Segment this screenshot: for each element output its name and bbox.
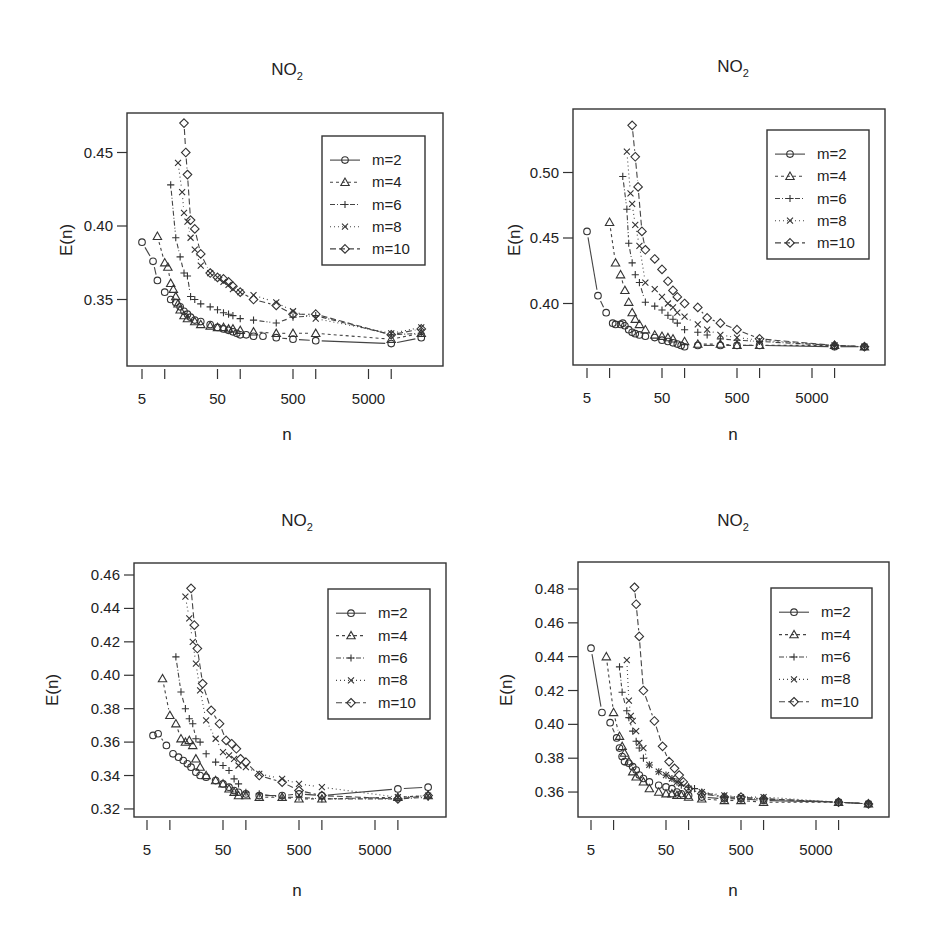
data-point [273,334,280,341]
data-point [188,235,194,241]
legend-item: m=6 [779,648,851,665]
data-point [237,315,244,322]
series-connector [708,799,719,800]
y-axis-label: E(n) [43,674,62,706]
data-point [674,320,681,327]
data-point [177,688,184,695]
data-point [212,759,219,766]
series-connector [214,715,216,718]
legend-item: m=8 [336,671,408,688]
data-point [659,294,665,300]
series-connector [592,654,601,706]
x-tick-label: 5 [583,389,591,406]
y-tick-label: 0.45 [84,144,113,161]
data-point [658,742,667,751]
legend-label: m=8 [378,671,408,688]
series-m-2 [588,645,872,807]
x-axis-label: n [292,881,301,900]
series-connector [627,215,628,237]
data-point [260,333,267,340]
series-connector [183,198,184,207]
data-point [650,717,659,726]
data-point [694,329,701,336]
plus-marker-icon [786,195,793,202]
y-tick-label: 0.40 [535,715,564,732]
series-connector [639,193,642,226]
data-point [680,299,689,308]
series-connector [637,610,639,630]
data-point [619,173,626,180]
data-point [670,304,676,310]
series-connector [607,663,613,707]
legend-item: m=4 [336,627,408,644]
data-point [215,719,224,728]
series-connector [397,334,415,335]
data-point [636,243,642,249]
data-point [203,717,209,723]
y-axis: 0.360.380.400.420.440.460.48 [535,580,578,800]
data-point [279,794,286,801]
series-connector [196,235,199,248]
data-point [161,289,168,296]
data-point [640,755,647,762]
data-point [630,718,636,724]
legend-item: m=4 [779,626,851,643]
data-point [624,657,630,663]
series-connector [145,247,150,256]
data-point [250,333,257,340]
data-point [197,300,204,307]
data-point [717,335,724,342]
series-connector [177,663,180,686]
series-connector [322,334,386,339]
y-tick-label: 0.40 [91,666,120,683]
series-connector [615,718,618,730]
data-point [198,263,204,269]
series-connector [620,673,621,686]
legend-item: m=2 [779,603,851,620]
series-connector [186,603,188,613]
y-tick-label: 0.38 [91,700,120,717]
series-connector [282,305,288,308]
data-point [164,263,172,270]
legend-label: m=2 [821,603,851,620]
x-tick-label: 500 [280,390,305,407]
data-point [197,739,204,746]
data-point [182,705,189,712]
x-tick-label: 500 [728,841,753,858]
data-point [289,314,296,321]
series-connector [259,297,270,301]
series-connector [245,295,248,297]
legend-label: m=2 [817,145,847,162]
legend-label: m=6 [817,190,847,207]
legend-item: m=8 [779,670,851,687]
y-tick-label: 0.42 [535,682,564,699]
data-point [196,250,205,259]
data-point [695,321,701,327]
data-point [616,663,623,670]
y-axis-label: E(n) [505,224,524,256]
legend-label: m=6 [372,196,402,213]
x-tick-label: 5000 [799,841,832,858]
data-point [231,775,238,782]
legend-label: m=10 [817,234,855,251]
data-point [602,652,610,659]
data-point [242,758,251,767]
data-point [186,615,192,621]
x-tick-label: 5000 [352,390,385,407]
y-axis: 0.320.340.360.380.400.420.440.46 [91,566,134,817]
legend: m=2m=4m=6m=8m=10 [322,136,425,265]
legend-label: m=6 [378,649,408,666]
series-connector [219,744,221,747]
y-tick-label: 0.46 [91,566,120,583]
series-connector [159,242,163,257]
data-point [312,337,319,344]
series-connector [265,777,276,780]
data-point [611,259,619,266]
data-point [733,325,742,334]
legend-label: m=10 [378,694,416,711]
data-point [665,301,671,307]
data-point [203,750,210,757]
data-point [595,292,602,299]
series-connector [397,330,415,334]
data-point [625,240,632,247]
